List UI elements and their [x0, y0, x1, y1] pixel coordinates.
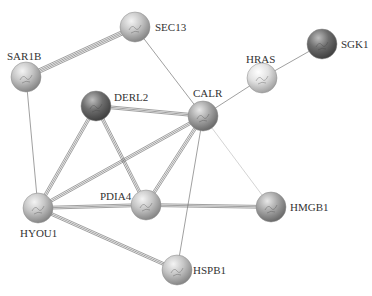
node-label: HRAS	[246, 53, 275, 65]
edge-sar1b-hyou1	[26, 77, 38, 208]
edge-sar1b-sec13	[25, 25, 136, 79]
node-hspb1[interactable]: HSPB1	[162, 255, 226, 285]
node-pdia4[interactable]: PDIA4	[100, 190, 161, 220]
node-label: DERL2	[114, 91, 148, 103]
node-label: SEC13	[155, 21, 187, 33]
node-sgk1[interactable]: SGK1	[307, 29, 369, 59]
node-hras[interactable]: HRAS	[246, 53, 277, 93]
node-hmgb1[interactable]: HMGB1	[256, 192, 329, 222]
node-sar1b[interactable]: SAR1B	[7, 50, 41, 92]
edge-hyou1-hspb1	[37, 207, 177, 272]
protein-node-icon[interactable]	[120, 12, 150, 42]
protein-node-icon[interactable]	[307, 29, 337, 59]
node-label: SAR1B	[7, 50, 41, 62]
protein-node-icon[interactable]	[23, 193, 53, 223]
edge-layer	[25, 25, 322, 271]
edge-derl2-calr	[96, 105, 203, 118]
protein-node-icon[interactable]	[131, 190, 161, 220]
edge-hyou1-pdia4	[38, 204, 146, 210]
protein-node-icon[interactable]	[162, 255, 192, 285]
protein-node-icon[interactable]	[11, 62, 41, 92]
protein-node-icon[interactable]	[188, 101, 218, 131]
edge-pdia4-hmgb1	[146, 204, 271, 209]
node-label: SGK1	[341, 38, 369, 50]
protein-node-icon[interactable]	[81, 91, 111, 121]
node-label: CALR	[193, 87, 223, 99]
node-sec13[interactable]: SEC13	[120, 12, 187, 42]
node-layer: SEC13SAR1BDERL2CALRHRASSGK1PDIA4HMGB1HYO…	[7, 12, 369, 285]
node-label: HYOU1	[20, 227, 57, 239]
protein-node-icon[interactable]	[247, 63, 277, 93]
node-calr[interactable]: CALR	[188, 87, 223, 131]
interaction-network: SEC13SAR1BDERL2CALRHRASSGK1PDIA4HMGB1HYO…	[0, 0, 372, 296]
node-label: HSPB1	[193, 264, 226, 276]
node-label: PDIA4	[100, 190, 132, 202]
edge-calr-hmgb1	[203, 116, 271, 207]
protein-node-icon[interactable]	[256, 192, 286, 222]
node-label: HMGB1	[290, 201, 329, 213]
